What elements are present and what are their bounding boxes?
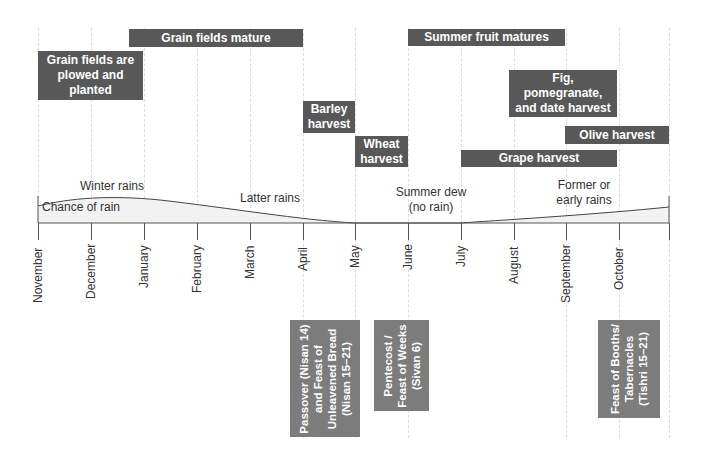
month-label: May (348, 245, 362, 268)
festival-line: Feast of Weeks (395, 324, 409, 408)
activity-label: Fig, pomegranate, and date harvest (513, 71, 613, 116)
tick (408, 223, 409, 240)
month-label: December (84, 244, 98, 299)
festival-line: Feast of Booths/ (608, 324, 622, 414)
tick (303, 223, 304, 240)
activity-label: Barley harvest (307, 102, 351, 132)
activity-label: Olive harvest (579, 128, 654, 143)
month-label: June (401, 244, 415, 270)
activity-label: Summer fruit matures (424, 30, 549, 45)
season-label-winter-rains: Winter rains (72, 179, 152, 194)
festival-line: (Nisan 15–21) (339, 324, 353, 433)
festival-booths-tabernacles: Feast of Booths/ Tabernacles (Tishri 15–… (598, 320, 660, 418)
festival-text: Feast of Booths/ Tabernacles (Tishri 15–… (608, 324, 650, 414)
activity-bar-fig-pomegranate-date-harvest: Fig, pomegranate, and date harvest (509, 70, 617, 117)
festival-text: Passover (Nisan 14) and Feast of Unleave… (297, 324, 353, 433)
festival-line: Pentecost / (381, 324, 395, 408)
activity-bar-olive-harvest: Olive harvest (565, 126, 669, 144)
month-label: April (296, 247, 310, 271)
festival-line: Unleavened Bread (325, 324, 339, 433)
month-label: October (612, 247, 626, 290)
month-label: November (31, 248, 45, 303)
activity-label: Grain fields mature (161, 31, 270, 46)
season-label-latter-rains: Latter rains (230, 191, 310, 206)
festival-pentecost: Pentecost / Feast of Weeks (Sivan 6) (374, 320, 429, 411)
tick (144, 223, 145, 240)
activity-bar-wheat-harvest: Wheat harvest (355, 136, 408, 167)
festival-text: Pentecost / Feast of Weeks (Sivan 6) (381, 324, 423, 408)
tick (461, 223, 462, 240)
festival-line: and Feast of (311, 324, 325, 433)
activity-bar-grain-fields-mature: Grain fields mature (129, 29, 303, 47)
tick (566, 223, 567, 240)
activity-bar-grape-harvest: Grape harvest (461, 150, 617, 167)
season-label-summer-dew: Summer dew (no rain) (386, 185, 476, 215)
season-label-former-rains: Former or early rains (552, 178, 616, 208)
month-label: February (190, 245, 204, 293)
tick (669, 223, 670, 240)
activity-label: Grain fields are plowed and planted (42, 53, 139, 98)
month-label: March (243, 246, 257, 279)
month-label: August (507, 247, 521, 284)
tick (355, 223, 356, 240)
month-label: January (137, 245, 151, 288)
festival-line: (Sivan 6) (409, 324, 423, 408)
festival-line: (Tishri 15–21) (636, 324, 650, 414)
tick (197, 223, 198, 240)
tick (250, 223, 251, 240)
activity-bar-summer-fruit-matures: Summer fruit matures (408, 29, 565, 46)
activity-label: Wheat harvest (359, 137, 404, 167)
month-label: September (559, 244, 573, 303)
activity-bar-grain-plowed-planted: Grain fields are plowed and planted (38, 51, 143, 100)
month-label: July (454, 246, 468, 267)
tick (514, 223, 515, 240)
chance-of-rain-label: Chance of rain (42, 200, 120, 215)
festival-line: Passover (Nisan 14) (297, 324, 311, 433)
festival-line: Tabernacles (622, 324, 636, 414)
tick (619, 223, 620, 240)
activity-bar-barley-harvest: Barley harvest (303, 101, 355, 133)
tick (38, 223, 39, 240)
activity-label: Grape harvest (499, 151, 580, 166)
festival-passover: Passover (Nisan 14) and Feast of Unleave… (290, 320, 360, 437)
tick (91, 223, 92, 240)
